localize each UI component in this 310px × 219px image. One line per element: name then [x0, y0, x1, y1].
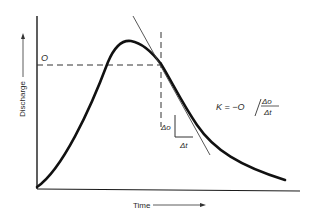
x-axis-label-group: Time — [133, 201, 206, 210]
tangent-line — [133, 16, 210, 155]
x-axis-arrow-head — [200, 203, 206, 207]
discharge-level-label: O — [41, 53, 48, 63]
y-axis-arrow-head — [21, 33, 25, 39]
formula-numerator: Δo — [261, 97, 272, 106]
formula-fraction-slash — [255, 99, 261, 116]
formula-lhs: K = −O — [216, 102, 245, 112]
y-axis-label: Discharge — [18, 80, 27, 117]
formula-denominator: Δt — [263, 108, 272, 117]
recession-constant-formula: K = −O Δo Δt — [216, 97, 279, 117]
y-axis-label-group: Discharge — [18, 33, 27, 117]
x-axis-label: Time — [133, 201, 151, 210]
x-axis — [37, 189, 300, 191]
hydrograph-diagram: O Δo Δt K = −O Δo Δt Discharge Time — [0, 0, 310, 219]
delta-o-label: Δo — [160, 123, 171, 132]
delta-t-label: Δt — [179, 141, 188, 150]
